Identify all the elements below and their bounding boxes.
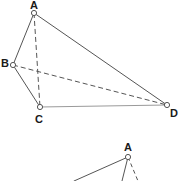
vertex-a2-marker [125, 154, 130, 159]
vertex-c-marker [37, 104, 42, 109]
vertex-label-b: B [1, 58, 9, 69]
edge-a2-down [122, 157, 128, 181]
edge-ad [34, 13, 167, 105]
geometry-figure-canvas: A B C D A [0, 0, 181, 181]
vertex-label-c: C [35, 114, 43, 125]
edge-a2-left [74, 157, 128, 181]
figure-svg [0, 0, 181, 181]
edge-bc [13, 65, 40, 107]
vertex-label-a2: A [124, 142, 132, 153]
edge-ab [13, 13, 34, 65]
vertex-d-marker [164, 102, 169, 107]
vertex-b-marker [10, 62, 15, 67]
main-figure-group [10, 10, 169, 109]
vertex-label-d: D [170, 108, 178, 119]
secondary-figure-group [74, 154, 138, 181]
edge-ac-hidden [34, 13, 40, 107]
vertex-a-marker [31, 10, 36, 15]
vertex-label-a: A [30, 0, 38, 11]
edge-cd [40, 105, 167, 107]
edge-bd-hidden [13, 65, 167, 105]
edge-a2-right [128, 157, 138, 181]
